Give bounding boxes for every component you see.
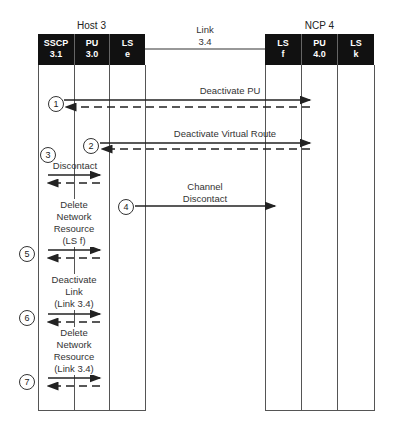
- step-3-label: Discontact: [40, 160, 110, 172]
- step-2-label: Deactivate Virtual Route: [135, 128, 315, 140]
- step-5-marker: 5: [19, 246, 35, 262]
- step-6-label-line2: Link: [40, 286, 108, 298]
- step-5-label-line1: Delete: [40, 199, 108, 211]
- step-5-label-line3: Resource: [40, 223, 108, 235]
- step-7-label-line4: (Link 3.4): [40, 363, 108, 375]
- step-7-label-line2: Network: [40, 339, 108, 351]
- step-1-marker: 1: [48, 96, 64, 112]
- step-2-marker: 2: [83, 138, 99, 154]
- step-7-label-line1: Delete: [40, 327, 108, 339]
- step-5-label: Delete Network Resource (LS f): [40, 199, 108, 247]
- step-4-label-line1: Channel: [165, 181, 245, 193]
- step-5-label-line2: Network: [40, 211, 108, 223]
- step-6-label: Deactivate Link (Link 3.4): [40, 274, 108, 310]
- step-4-label: Channel Discontact: [165, 181, 245, 205]
- step-4-marker: 4: [118, 199, 134, 215]
- step-5-label-line4: (LS f): [40, 235, 108, 247]
- step-1-label: Deactivate PU: [150, 85, 310, 97]
- step-7-label-line3: Resource: [40, 351, 108, 363]
- step-4-label-line2: Discontact: [165, 193, 245, 205]
- step-6-label-line3: (Link 3.4): [40, 298, 108, 310]
- step-6-label-line1: Deactivate: [40, 274, 108, 286]
- step-7-marker: 7: [19, 374, 35, 390]
- step-6-marker: 6: [19, 310, 35, 326]
- step-7-label: Delete Network Resource (Link 3.4): [40, 327, 108, 375]
